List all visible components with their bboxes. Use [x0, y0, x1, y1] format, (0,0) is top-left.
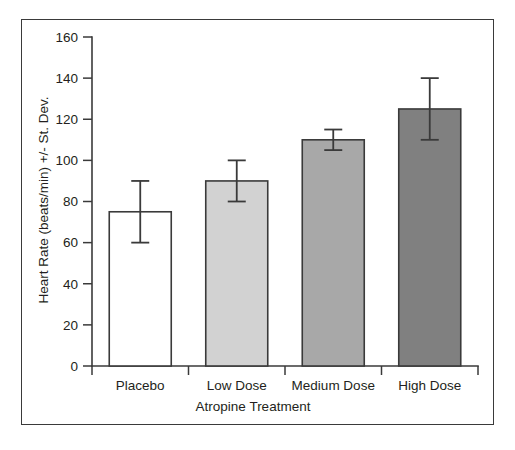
y-axis-tick-labels: 020406080100120140160	[55, 30, 78, 374]
y-axis-tick-label: 40	[63, 277, 78, 292]
figure-container: 020406080100120140160 PlaceboLow DoseMed…	[0, 0, 515, 450]
x-axis-category-separators	[92, 366, 478, 375]
x-axis-title: Atropine Treatment	[196, 399, 311, 414]
x-axis-category-label: Placebo	[116, 378, 165, 393]
bars-group	[109, 109, 461, 366]
x-axis-category-labels: PlaceboLow DoseMedium DoseHigh Dose	[116, 378, 461, 393]
x-axis-category-label: Medium Dose	[292, 378, 375, 393]
bar	[302, 140, 364, 366]
y-axis-tick-label: 140	[55, 71, 78, 86]
chart-plot-area: 020406080100120140160 PlaceboLow DoseMed…	[0, 0, 515, 450]
x-axis-category-label: High Dose	[398, 378, 461, 393]
y-axis-tick-label: 20	[63, 318, 78, 333]
x-axis-category-label: Low Dose	[207, 378, 267, 393]
y-axis-tick-label: 160	[55, 30, 78, 45]
y-axis-title: Heart Rate (beats/min) +/- St. Dev.	[36, 96, 51, 303]
bar	[206, 181, 268, 366]
y-axis-tick-label: 100	[55, 153, 78, 168]
y-axis-tick-label: 80	[63, 194, 78, 209]
y-axis-tick-label: 0	[70, 359, 78, 374]
error-bars-group	[131, 78, 439, 243]
y-axis-tick-label: 120	[55, 112, 78, 127]
y-axis-tick-label: 60	[63, 235, 78, 250]
bar	[399, 109, 461, 366]
y-axis-ticks	[83, 37, 92, 366]
bar-chart-svg: 020406080100120140160 PlaceboLow DoseMed…	[0, 0, 515, 450]
